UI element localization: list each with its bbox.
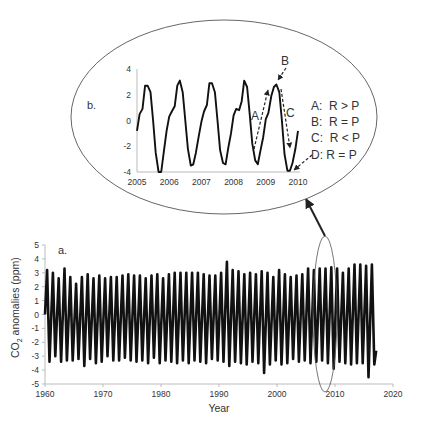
y-tick-label: 2 bbox=[126, 90, 131, 100]
x-tick-label: 1960 bbox=[36, 389, 55, 399]
panel-a-x-ticks: 1960197019801990200020102020 bbox=[36, 384, 403, 399]
y-tick-label: -5 bbox=[31, 379, 39, 389]
panel-a-y-ticks: 543210-1-2-3-4-5 bbox=[31, 240, 45, 389]
panel-a-label: a. bbox=[58, 244, 67, 256]
y-tick-label: 0 bbox=[126, 116, 131, 126]
y-tick-label: 1 bbox=[34, 296, 39, 306]
annotation-letter-c: C bbox=[286, 106, 295, 120]
y-tick-label: -3 bbox=[31, 351, 39, 361]
y-tick-label: 2 bbox=[34, 282, 39, 292]
zoom-pointer-arrow bbox=[306, 199, 325, 236]
annotation-letter-b: B bbox=[281, 54, 289, 68]
y-tick-label: -1 bbox=[31, 323, 39, 333]
panel-a: 543210-1-2-3-4-5 19601970198019902000201… bbox=[9, 199, 403, 414]
x-tick-label: 2005 bbox=[128, 177, 147, 187]
y-tick-label: 0 bbox=[34, 310, 39, 320]
figure-canvas: 543210-1-2-3-4-5 19601970198019902000201… bbox=[0, 0, 422, 425]
legend-item-d: D: R = P bbox=[311, 148, 357, 162]
y-tick-label: -2 bbox=[31, 337, 39, 347]
y-tick-label: 3 bbox=[34, 268, 39, 278]
y-tick-label: 4 bbox=[34, 254, 39, 264]
panel-a-data-line bbox=[45, 262, 376, 377]
x-tick-label: 2007 bbox=[192, 177, 211, 187]
x-tick-label: 2020 bbox=[384, 389, 403, 399]
x-tick-label: 2009 bbox=[256, 177, 275, 187]
x-tick-label: 1980 bbox=[152, 389, 171, 399]
x-tick-label: 2010 bbox=[326, 389, 345, 399]
y-tick-label: 4 bbox=[126, 64, 131, 74]
panel-b-label: b. bbox=[87, 99, 96, 111]
x-tick-label: 2000 bbox=[268, 389, 287, 399]
panel-a-x-axis-title: Year bbox=[208, 402, 230, 414]
y-tick-label: -4 bbox=[123, 167, 131, 177]
legend-item-b: B: R = P bbox=[311, 115, 359, 129]
x-tick-label: 2010 bbox=[289, 177, 308, 187]
x-tick-label: 1970 bbox=[94, 389, 113, 399]
x-tick-label: 2008 bbox=[224, 177, 243, 187]
legend-item-c: C: R < P bbox=[311, 131, 360, 145]
x-tick-label: 2006 bbox=[160, 177, 179, 187]
legend-item-a: A: R > P bbox=[311, 99, 359, 113]
y-tick-label: 5 bbox=[34, 240, 39, 250]
panel-a-y-axis-title: CO2 anomalies (ppm) bbox=[9, 257, 23, 358]
panel-b-inset: 420-2-4 200520062007200820092010 b. A B … bbox=[71, 20, 377, 214]
annotation-letter-a: A bbox=[251, 109, 259, 123]
y-tick-label: -4 bbox=[31, 365, 39, 375]
y-tick-label: -2 bbox=[123, 141, 131, 151]
x-tick-label: 1990 bbox=[210, 389, 229, 399]
